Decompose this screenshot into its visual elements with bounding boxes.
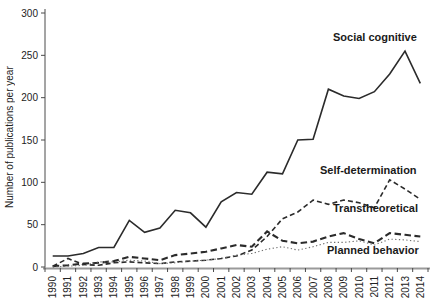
x-tick-label: 1999 [185,276,196,299]
series-line-social-cognitive [53,51,421,256]
x-tick-label: 1998 [170,276,181,299]
y-tick-label: 100 [21,177,38,188]
y-tick-label: 250 [21,50,38,61]
y-tick-label: 300 [21,8,38,19]
x-tick-label: 1997 [154,276,165,299]
y-tick-label: 50 [27,219,39,230]
x-tick-label: 2005 [277,276,288,299]
x-tick-label: 1990 [47,276,58,299]
y-tick-label: 0 [32,262,38,273]
publications-line-chart: 0501001502002503001990199119921993199419… [0,0,430,306]
x-tick-label: 2004 [262,276,273,299]
plot-area: 0501001502002503001990199119921993199419… [0,0,430,306]
x-tick-label: 1994 [108,276,119,299]
x-tick-label: 2013 [400,276,411,299]
x-tick-label: 2000 [200,276,211,299]
x-tick-label: 1992 [78,276,89,299]
x-tick-label: 1995 [124,276,135,299]
x-tick-label: 2010 [354,276,365,299]
series-label-planned-behavior: Planned behavior [327,244,419,256]
x-tick-label: 2009 [338,276,349,299]
x-tick-label: 1993 [93,276,104,299]
x-tick-label: 2011 [369,276,380,298]
series-label-social-cognitive: Social cognitive [333,31,417,43]
x-tick-label: 2012 [384,276,395,299]
x-tick-label: 2007 [308,276,319,299]
series-label-self-determination: Self-determination [320,164,417,176]
y-tick-label: 150 [21,135,38,146]
x-tick-label: 2008 [323,276,334,299]
x-tick-label: 2006 [292,276,303,299]
x-tick-label: 2003 [246,276,257,299]
x-tick-label: 2002 [231,276,242,299]
x-tick-label: 1996 [139,276,150,299]
y-axis-title: Number of publications per year [4,57,18,217]
x-tick-label: 2001 [216,276,227,299]
series-label-transtheoretical: Transtheoretical [333,202,418,214]
x-tick-label: 2014 [415,276,426,299]
y-tick-label: 200 [21,92,38,103]
x-tick-label: 1991 [62,276,73,299]
